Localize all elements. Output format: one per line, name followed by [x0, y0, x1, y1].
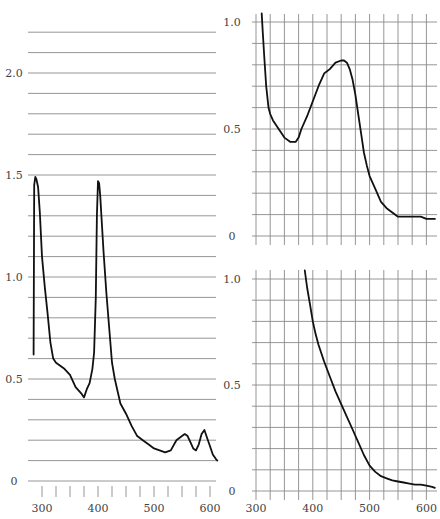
y-tick-label: 0.5 [223, 379, 241, 392]
y-tick-label: 0 [229, 485, 236, 498]
y-tick-label: 0.5 [223, 123, 241, 136]
y-tick-label: 0 [11, 475, 18, 488]
spectrum-line [34, 177, 218, 461]
y-tick-label: 1.0 [223, 273, 241, 286]
x-tick-label: 600 [200, 502, 221, 515]
y-tick-label: 1.0 [223, 16, 241, 29]
grid-lines [28, 32, 216, 497]
x-tick-label: 400 [302, 502, 323, 515]
bottom-right-chart: 00.51.0300400500600 [223, 270, 437, 515]
top-right-chart: 00.51.0 [223, 13, 437, 245]
y-tick-label: 1.5 [5, 169, 23, 182]
x-tick-label: 400 [88, 502, 109, 515]
spectra-figure: 00.51.01.52.0300400500600 00.51.0 00.51.… [0, 0, 440, 519]
x-tick-label: 500 [144, 502, 165, 515]
y-tick-label: 2.0 [5, 67, 23, 80]
y-tick-label: 1.0 [5, 271, 23, 284]
y-tick-label: 0 [229, 230, 236, 243]
x-tick-label: 300 [246, 502, 267, 515]
left-chart: 00.51.01.52.0300400500600 [5, 32, 220, 515]
y-tick-label: 0.5 [5, 373, 23, 386]
grid-lines [252, 270, 437, 500]
x-tick-label: 600 [416, 502, 437, 515]
spectrum-line [262, 13, 435, 219]
x-tick-label: 300 [32, 502, 53, 515]
x-tick-label: 500 [359, 502, 380, 515]
